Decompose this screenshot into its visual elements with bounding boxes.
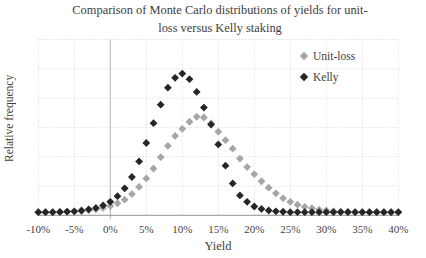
marker-kelly (63, 208, 71, 216)
legend-diamond-icon (300, 52, 308, 60)
legend-label: Unit-loss (313, 50, 355, 62)
plot-area (0, 0, 426, 258)
marker-unit-loss (250, 170, 258, 178)
legend-diamond-icon (300, 73, 308, 81)
marker-unit-loss (128, 190, 136, 198)
marker-kelly (106, 198, 114, 206)
marker-unit-loss (272, 189, 280, 197)
marker-kelly (78, 207, 86, 215)
marker-kelly (243, 198, 251, 206)
marker-kelly (258, 205, 266, 213)
marker-kelly (236, 192, 244, 200)
marker-kelly (250, 203, 258, 211)
marker-unit-loss (164, 142, 172, 150)
marker-kelly (128, 173, 136, 181)
marker-unit-loss (258, 177, 266, 185)
marker-unit-loss (286, 198, 294, 206)
marker-kelly (157, 101, 165, 109)
marker-kelly (186, 75, 194, 83)
marker-kelly (279, 208, 287, 216)
marker-kelly (200, 104, 208, 112)
marker-unit-loss (135, 183, 143, 191)
marker-kelly (214, 141, 222, 149)
marker-kelly (56, 208, 64, 216)
marker-unit-loss (186, 118, 194, 126)
marker-kelly (150, 119, 158, 127)
marker-kelly (272, 207, 280, 215)
marker-kelly (207, 121, 215, 129)
marker-unit-loss (222, 136, 230, 144)
marker-unit-loss (178, 125, 186, 133)
marker-unit-loss (142, 175, 150, 183)
marker-kelly (193, 88, 201, 96)
legend: Unit-lossKelly (301, 46, 355, 87)
marker-kelly (178, 70, 186, 78)
marker-kelly (121, 184, 129, 192)
marker-kelly (265, 207, 273, 215)
marker-unit-loss (193, 113, 201, 121)
legend-label: Kelly (313, 71, 339, 83)
marker-kelly (70, 207, 78, 215)
marker-kelly (164, 84, 172, 92)
marker-unit-loss (200, 114, 208, 122)
legend-item-unit-loss: Unit-loss (301, 46, 355, 66)
marker-kelly (85, 205, 93, 213)
marker-kelly (92, 204, 100, 212)
marker-unit-loss (279, 194, 287, 202)
marker-unit-loss (243, 163, 251, 171)
marker-kelly (114, 192, 122, 200)
marker-kelly (142, 139, 150, 147)
legend-item-kelly: Kelly (301, 67, 355, 87)
marker-kelly (135, 158, 143, 166)
marker-kelly (229, 180, 237, 188)
marker-unit-loss (265, 184, 273, 192)
marker-unit-loss (150, 165, 158, 173)
marker-unit-loss (171, 132, 179, 140)
marker-unit-loss (294, 201, 302, 209)
marker-unit-loss (121, 196, 129, 204)
chart: Comparison of Monte Carlo distributions … (0, 0, 426, 258)
marker-unit-loss (114, 199, 122, 207)
marker-unit-loss (229, 145, 237, 153)
x-axis-label: Yield (178, 239, 258, 254)
marker-kelly (171, 74, 179, 82)
marker-unit-loss (157, 153, 165, 161)
marker-unit-loss (214, 128, 222, 136)
marker-unit-loss (236, 155, 244, 163)
marker-kelly (222, 162, 230, 170)
